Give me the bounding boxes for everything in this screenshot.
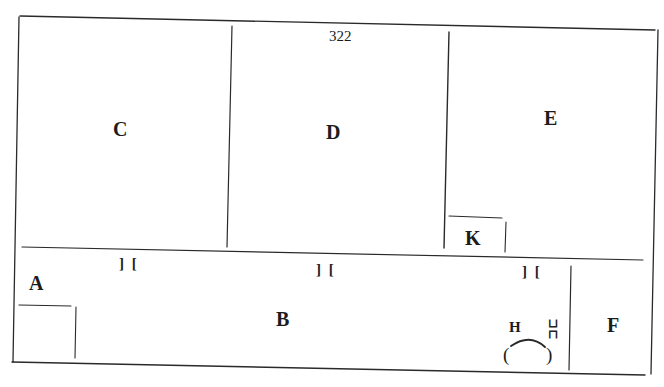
door-opening-3: ] [ xyxy=(522,264,542,279)
room-label-b: B xyxy=(276,309,289,329)
wall-k-top xyxy=(449,216,502,218)
wall-a-top xyxy=(19,305,71,306)
hearth-left: ( xyxy=(503,345,509,364)
wall-k-right xyxy=(505,222,506,252)
page-number: 322 xyxy=(329,29,352,44)
hearth-arc xyxy=(511,340,545,347)
room-label-d: D xyxy=(326,122,340,142)
door-opening-1: ] [ xyxy=(119,256,139,271)
wall-b-f xyxy=(569,266,571,370)
wall-upper-lower xyxy=(22,247,643,260)
room-label-f: F xyxy=(607,315,619,335)
room-label-e: E xyxy=(544,108,557,128)
door-opening-2: ] [ xyxy=(316,262,336,277)
wall-d-e xyxy=(444,32,449,248)
outer-wall-left xyxy=(13,17,19,362)
wall-a-right xyxy=(75,307,76,358)
room-label-c: C xyxy=(113,119,127,139)
room-label-a: A xyxy=(29,273,43,293)
floor-plan-walls xyxy=(0,0,664,387)
room-label-k: K xyxy=(465,228,481,248)
room-label-h: H xyxy=(509,320,521,335)
wall-c-d xyxy=(227,26,232,247)
hearth-right: ) xyxy=(546,345,552,364)
outer-wall-right xyxy=(651,30,658,374)
door-opening-4: ⊐⊏ xyxy=(547,318,560,340)
